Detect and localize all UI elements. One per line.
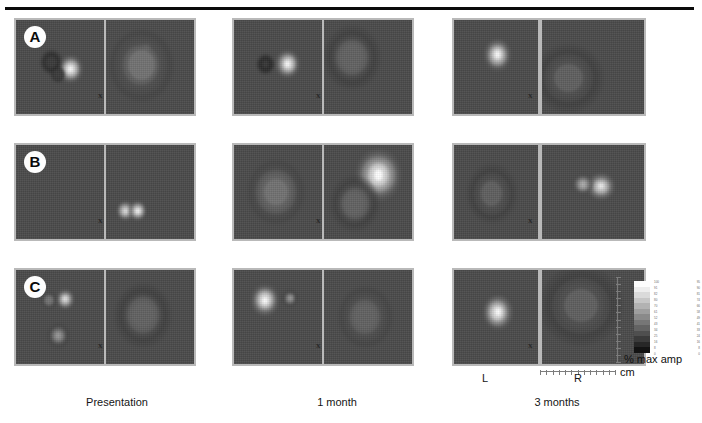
contour-ring: [47, 57, 56, 67]
ruler-tick: [616, 320, 621, 321]
hotspot-core: [262, 297, 268, 304]
separator-x-mark: x: [316, 215, 321, 225]
column-caption-3-months: 3 months: [482, 396, 632, 408]
colorbar-tick-labels: 1009591908281807470666158524943413433252…: [654, 279, 700, 355]
scale-unit-label: cm: [620, 366, 635, 378]
separator-x-mark: x: [316, 340, 321, 350]
hotspot-core: [136, 209, 140, 213]
contour-ring: [344, 192, 365, 215]
contour-ring: [564, 289, 598, 322]
ruler-tick: [615, 370, 616, 375]
ruler-tick: [616, 291, 621, 292]
ruler-tick: [616, 355, 621, 356]
separator-x-mark: x: [528, 340, 533, 350]
ruler-tick: [603, 370, 604, 375]
hotspot-core: [124, 209, 128, 213]
ruler-tick: [616, 284, 621, 285]
separator-x-mark: x: [98, 215, 103, 225]
row-badge-c: C: [24, 276, 46, 298]
heatmap-panel-a-3-months-l: [452, 18, 540, 116]
colorbar: [634, 281, 650, 353]
separator-x-mark: x: [528, 90, 533, 100]
ruler-tick: [616, 298, 621, 299]
contour-ring: [340, 44, 364, 71]
hotspot-core: [374, 169, 384, 180]
ruler-tick: [616, 341, 621, 342]
column-caption-1-month: 1 month: [262, 396, 412, 408]
contour-ring: [264, 179, 288, 206]
panel-texture: [234, 270, 322, 364]
row-badge-a: A: [24, 26, 46, 48]
ruler-tick: [616, 327, 621, 328]
heatmap-panel-b-1-month-r: [322, 143, 414, 241]
ruler-tick: [540, 370, 541, 375]
ruler-tick: [546, 370, 547, 375]
separator-x-mark: x: [316, 90, 321, 100]
separator-x-mark: x: [98, 340, 103, 350]
colorbar-title: % max amp: [624, 353, 682, 365]
heatmap-panel-b-presentation-r: [104, 143, 196, 241]
separator-x-mark: x: [528, 215, 533, 225]
hotspot-core: [581, 182, 585, 186]
heatmap-panel-c-3-months-l: [452, 268, 540, 366]
top-horizontal-rule: [5, 7, 694, 10]
ruler-tick: [616, 334, 621, 335]
vertical-scale-ruler: [617, 277, 622, 362]
contour-ring: [55, 71, 61, 78]
column-caption-presentation: Presentation: [42, 396, 192, 408]
heatmap-panel-a-1-month-l: [232, 18, 324, 116]
ruler-tick: [609, 370, 610, 375]
hotspot-core: [289, 296, 292, 299]
heatmap-panel-b-1-month-l: [232, 143, 324, 241]
heatmap-panel-b-3-months-l: [452, 143, 540, 241]
contour-ring: [128, 50, 155, 80]
ruler-tick: [553, 370, 554, 375]
heatmap-panel-a-presentation-r: [104, 18, 196, 116]
ruler-tick: [616, 348, 621, 349]
figure-root: xxxxxxxxx 100959190828180747066615852494…: [0, 0, 702, 423]
separator-x-mark: x: [98, 90, 103, 100]
heatmap-panel-c-1-month-l: [232, 268, 324, 366]
ruler-tick: [616, 362, 621, 363]
hotspot-core: [68, 66, 73, 72]
side-label-left: L: [465, 372, 505, 384]
row-badge-b: B: [24, 151, 46, 173]
ruler-tick: [616, 277, 621, 278]
colorbar-tick-right: 0: [698, 351, 700, 357]
panel-texture: [106, 145, 194, 239]
heatmap-panel-a-1-month-r: [322, 18, 414, 116]
side-label-right: R: [558, 372, 598, 384]
heatmap-panel-c-3-months-r: [540, 268, 646, 366]
ruler-tick: [616, 312, 621, 313]
heatmap-panel-b-3-months-r: [540, 143, 646, 241]
heatmap-panel-a-3-months-r: [540, 18, 646, 116]
hotspot-core: [495, 308, 501, 316]
heatmap-panel-c-1-month-r: [322, 268, 414, 366]
heatmap-panel-c-presentation-r: [104, 268, 196, 366]
ruler-tick: [616, 305, 621, 306]
contour-ring: [131, 302, 155, 329]
